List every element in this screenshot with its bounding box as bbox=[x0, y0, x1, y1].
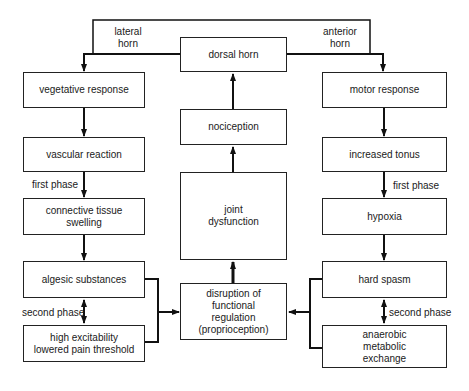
disruption-box: disruption of functional regulation (pro… bbox=[180, 283, 287, 340]
joint-dysfunction-box: joint dysfunction bbox=[180, 172, 287, 260]
anterior-horn-label: anterior horn bbox=[315, 26, 365, 50]
left-second-phase-label: second phase bbox=[22, 307, 84, 319]
motor-response-box: motor response bbox=[322, 72, 447, 108]
right-first-phase-label: first phase bbox=[393, 180, 439, 192]
hypoxia-box: hypoxia bbox=[322, 198, 447, 235]
anaerobic-box: anaerobic metabolic exchange bbox=[322, 325, 447, 368]
left-first-phase-label: first phase bbox=[32, 179, 78, 191]
nociception-box: nociception bbox=[180, 109, 287, 145]
lateral-horn-label: lateral horn bbox=[108, 26, 148, 50]
vascular-reaction-box: vascular reaction bbox=[23, 137, 145, 172]
vegetative-response-box: vegetative response bbox=[23, 72, 145, 108]
algesic-substances-box: algesic substances bbox=[23, 261, 145, 298]
high-excitability-box: high excitability lowered pain threshold bbox=[23, 325, 145, 362]
connective-tissue-box: connective tissue swelling bbox=[23, 198, 145, 235]
right-second-phase-label: second phase bbox=[389, 307, 451, 319]
dorsal-horn-box: dorsal horn bbox=[180, 37, 287, 72]
increased-tonus-box: increased tonus bbox=[322, 137, 447, 172]
hard-spasm-box: hard spasm bbox=[322, 261, 447, 298]
